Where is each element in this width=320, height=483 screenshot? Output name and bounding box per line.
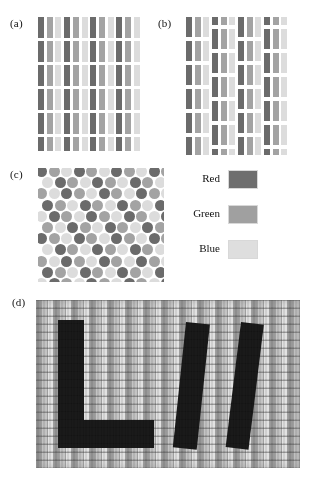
subpixel-green bbox=[247, 113, 253, 133]
subpixel-red bbox=[186, 17, 192, 37]
subpixel-dot-green bbox=[38, 256, 47, 267]
subpixel-green bbox=[273, 149, 279, 155]
subpixel-dot-red bbox=[117, 267, 128, 278]
legend-row-blue: Blue bbox=[186, 240, 264, 260]
subpixel-dot-green bbox=[149, 188, 160, 199]
subpixel-dot-blue bbox=[80, 177, 91, 188]
subpixel-blue bbox=[82, 113, 88, 134]
subpixel-dot-red bbox=[42, 267, 53, 278]
legend-label-red: Red bbox=[202, 172, 220, 184]
stripe-row bbox=[38, 65, 142, 86]
subpixel-dot-blue bbox=[49, 188, 60, 199]
subpixel-dot-red bbox=[142, 222, 153, 233]
subpixel-green bbox=[125, 113, 131, 134]
subpixel-dot-green bbox=[92, 267, 103, 278]
subpixel-red bbox=[64, 17, 70, 38]
subpixel-dot-blue bbox=[142, 200, 153, 211]
subpixel-red bbox=[212, 29, 218, 49]
subpixel-blue bbox=[255, 137, 261, 155]
subpixel-dot-blue bbox=[61, 168, 72, 177]
subpixel-dot-blue bbox=[74, 278, 85, 282]
subpixel-red bbox=[64, 41, 70, 62]
subpixel-blue bbox=[55, 17, 61, 38]
subpixel-green bbox=[221, 53, 227, 73]
subpixel-blue bbox=[55, 65, 61, 86]
subpixel-green bbox=[273, 77, 279, 97]
subpixel-red bbox=[64, 137, 70, 151]
subpixel-blue bbox=[82, 41, 88, 62]
subpixel-dot-blue bbox=[38, 278, 47, 282]
subpixel-dot-green bbox=[61, 211, 72, 222]
letter-stroke bbox=[58, 420, 154, 448]
subpixel-dot-green bbox=[55, 200, 66, 211]
subpixel-red bbox=[116, 65, 122, 86]
subpixel-green bbox=[73, 65, 79, 86]
subpixel-green bbox=[247, 17, 253, 37]
subpixel-blue bbox=[281, 125, 287, 145]
subpixel-green bbox=[47, 41, 53, 62]
subpixel-red bbox=[186, 89, 192, 109]
subpixel-green bbox=[125, 137, 131, 151]
subpixel-red bbox=[186, 65, 192, 85]
subpixel-blue bbox=[255, 17, 261, 37]
subpixel-blue bbox=[281, 53, 287, 73]
subpixel-green bbox=[273, 29, 279, 49]
subpixel-blue bbox=[203, 41, 209, 61]
subpixel-red bbox=[90, 113, 96, 134]
subpixel-green bbox=[195, 113, 201, 133]
subpixel-dot-blue bbox=[67, 200, 78, 211]
subpixel-red bbox=[212, 125, 218, 145]
subpixel-dot-red bbox=[161, 278, 164, 282]
subpixel-dot-green bbox=[49, 168, 60, 177]
legend-row-green: Green bbox=[186, 205, 264, 225]
subpixel-dot-red bbox=[80, 200, 91, 211]
subpixel-green bbox=[247, 41, 253, 61]
subpixel-green bbox=[221, 77, 227, 97]
subpixel-green bbox=[125, 17, 131, 38]
subpixel-green bbox=[47, 113, 53, 134]
subpixel-blue bbox=[108, 113, 114, 134]
subpixel-dot-blue bbox=[38, 211, 47, 222]
subpixel-dot-blue bbox=[136, 168, 147, 177]
subpixel-green bbox=[47, 137, 53, 151]
displayed-text-lw bbox=[36, 300, 300, 468]
subpixel-dot-red bbox=[149, 168, 160, 177]
subpixel-blue bbox=[229, 17, 235, 25]
subpixel-dot-green bbox=[80, 222, 91, 233]
subpixel-red bbox=[116, 89, 122, 110]
subpixel-red bbox=[90, 17, 96, 38]
subpixel-red bbox=[64, 65, 70, 86]
subpixel-green bbox=[47, 65, 53, 86]
letter-stroke bbox=[288, 448, 300, 450]
subpixel-blue bbox=[134, 41, 140, 62]
subpixel-red bbox=[212, 149, 218, 155]
subpixel-dot-red bbox=[92, 177, 103, 188]
subpixel-red bbox=[38, 89, 44, 110]
subpixel-red bbox=[238, 41, 244, 61]
subpixel-green bbox=[195, 89, 201, 109]
subpixel-dot-blue bbox=[86, 188, 97, 199]
subpixel-dot-green bbox=[117, 222, 128, 233]
subpixel-red bbox=[264, 77, 270, 97]
subpixel-blue bbox=[108, 65, 114, 86]
subpixel-dot-green bbox=[86, 168, 97, 177]
subpixel-blue bbox=[82, 137, 88, 151]
legend-label-blue: Blue bbox=[199, 242, 220, 254]
subpixel-red bbox=[212, 77, 218, 97]
subpixel-blue bbox=[255, 65, 261, 85]
subpixel-blue bbox=[229, 125, 235, 145]
subpixel-dot-blue bbox=[130, 222, 141, 233]
subpixel-red bbox=[238, 89, 244, 109]
subpixel-red bbox=[238, 113, 244, 133]
subpixel-dot-green bbox=[105, 177, 116, 188]
panel-b-label: (b) bbox=[158, 17, 171, 29]
subpixel-green bbox=[221, 125, 227, 145]
subpixel-blue bbox=[55, 41, 61, 62]
subpixel-green bbox=[73, 41, 79, 62]
stripe-row bbox=[38, 89, 142, 110]
subpixel-green bbox=[247, 89, 253, 109]
subpixel-green bbox=[221, 149, 227, 155]
subpixel-dot-green bbox=[99, 278, 110, 282]
subpixel-blue bbox=[229, 53, 235, 73]
subpixel-red bbox=[90, 65, 96, 86]
